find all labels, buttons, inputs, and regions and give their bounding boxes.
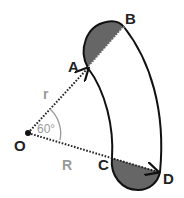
label-a: A <box>68 58 79 75</box>
label-angle: 60° <box>37 122 55 136</box>
label-d: D <box>163 170 174 187</box>
top-shaded-cap <box>84 21 124 68</box>
label-c: C <box>98 156 109 173</box>
label-outer-radius: R <box>62 157 72 173</box>
center-point-o <box>25 130 31 136</box>
ring-sector-diagram: O A B C D r R 60° <box>0 0 184 198</box>
radius-R-line <box>28 133 158 172</box>
label-inner-radius: r <box>43 86 49 102</box>
label-b: B <box>125 10 136 27</box>
label-o: O <box>14 137 26 154</box>
